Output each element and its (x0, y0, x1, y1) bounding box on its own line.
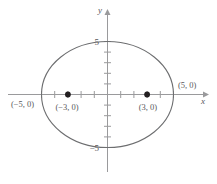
focus-point-right (144, 92, 150, 98)
x-axis-label: x (200, 96, 205, 106)
y-tick-label-neg5: −5 (89, 143, 99, 153)
focus-label-right: (3, 0) (139, 102, 158, 112)
y-tick-label-5: 5 (95, 37, 100, 47)
vertex-label-right: (5, 0) (178, 80, 197, 90)
focus-label-left: (−3, 0) (55, 102, 78, 112)
focus-point-left (65, 92, 71, 98)
ellipse-figure: y x 5 −5 (−5, 0) (−3, 0) (3, 0) (5, 0) (0, 0, 217, 184)
y-axis-label: y (97, 5, 102, 15)
coordinate-plot: y x 5 −5 (−5, 0) (−3, 0) (3, 0) (5, 0) (0, 0, 217, 184)
y-axis-arrow-icon (105, 9, 111, 15)
vertex-label-left: (−5, 0) (11, 99, 34, 109)
